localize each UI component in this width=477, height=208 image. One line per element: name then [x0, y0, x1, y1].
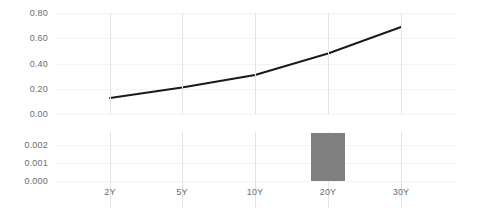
- chart-figure: 0.80 0.60 0.40 0.20 0.00 0.002 0.001 0.0…: [0, 0, 477, 208]
- xtick-2y: 2Y: [104, 187, 115, 197]
- gridline-y-0002: [55, 145, 458, 146]
- gridline-x-20y: [328, 13, 329, 114]
- yield-curve-line: [55, 13, 458, 114]
- bar-20y: [311, 133, 345, 181]
- gridline-y-0000: [55, 181, 458, 182]
- xtick-30y: 30Y: [393, 187, 410, 197]
- gridline-x-2y: [110, 13, 111, 114]
- ytick-bottom-0000: 0.000: [0, 176, 48, 186]
- xtick-5y: 5Y: [176, 187, 187, 197]
- ytick-top-020: 0.20: [0, 84, 48, 94]
- ytick-bottom-0001: 0.001: [0, 158, 48, 168]
- gridline-x-30y: [401, 13, 402, 114]
- ytick-top-080: 0.80: [0, 8, 48, 18]
- ytick-bottom-0002: 0.002: [0, 140, 48, 150]
- xtick-10y: 10Y: [247, 187, 264, 197]
- gridline-x-10y: [255, 13, 256, 114]
- gridline-y-000: [55, 114, 458, 115]
- gridline-x-5y: [182, 13, 183, 114]
- gridline-y-0001: [55, 163, 458, 164]
- ytick-top-040: 0.40: [0, 59, 48, 69]
- top-plot-area: [55, 13, 458, 114]
- ytick-top-060: 0.60: [0, 33, 48, 43]
- top-panel-line-chart: 0.80 0.60 0.40 0.20 0.00: [0, 0, 477, 118]
- x-axis-tick-labels: 2Y 5Y 10Y 20Y 30Y: [0, 187, 477, 201]
- xtick-20y: 20Y: [320, 187, 337, 197]
- bottom-plot-area: [55, 145, 458, 181]
